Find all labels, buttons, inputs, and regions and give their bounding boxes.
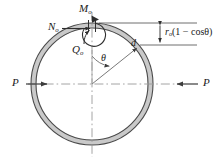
normal-force-subscript: o	[55, 26, 58, 33]
shear-force-label: Qo	[72, 44, 83, 56]
angle-label: θ	[101, 53, 106, 63]
formula-expression: (1 − cosθ)	[172, 26, 212, 37]
moment-symbol: M	[79, 2, 88, 14]
shear-force-symbol: Q	[72, 43, 80, 55]
deflection-formula-label: ro(1 − cosθ)	[165, 27, 212, 38]
shear-force-subscript: o	[80, 49, 83, 56]
moment-subscript: o	[88, 8, 91, 15]
load-label-right: P	[203, 77, 210, 88]
radius-label: d	[131, 38, 136, 48]
ring-mechanics-diagram: Mo No Qo θ d P P ro(1 − cosθ)	[0, 0, 224, 164]
load-label-left: P	[12, 77, 19, 88]
moment-label: Mo	[79, 3, 92, 15]
radius-line	[92, 48, 137, 84]
diagram-canvas	[0, 0, 224, 164]
normal-force-label: No	[48, 21, 59, 33]
